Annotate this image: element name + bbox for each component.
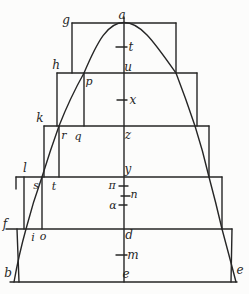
label-m-axis: m xyxy=(127,248,138,262)
label-t-foot: t xyxy=(52,180,57,193)
label-e-right: e xyxy=(236,263,243,277)
label-a: a xyxy=(118,8,125,22)
label-l: l xyxy=(23,161,27,175)
label-u: u xyxy=(124,60,132,74)
label-e-center: e xyxy=(122,267,129,281)
label-pi: π xyxy=(107,179,116,192)
label-t-axis: t xyxy=(129,40,134,54)
label-k: k xyxy=(36,111,43,125)
label-q: q xyxy=(74,130,81,143)
label-b: b xyxy=(4,266,12,280)
label-h: h xyxy=(52,58,60,72)
label-i: i xyxy=(31,231,35,244)
label-g: g xyxy=(62,13,70,27)
label-o: o xyxy=(40,230,47,243)
label-s: s xyxy=(33,179,39,192)
label-z: z xyxy=(124,128,132,142)
rect5-right-edge xyxy=(231,229,232,282)
diagram-stage: a t u x z y π n α d m e g h k l f b p r … xyxy=(0,0,249,294)
diagram-svg: a t u x z y π n α d m e g h k l f b p r … xyxy=(0,0,249,294)
label-alpha: α xyxy=(109,199,117,212)
label-p: p xyxy=(85,75,92,88)
label-n: n xyxy=(130,188,137,201)
label-d: d xyxy=(125,228,133,242)
label-x-axis: x xyxy=(130,93,137,107)
label-r: r xyxy=(61,129,67,142)
label-y: y xyxy=(124,162,132,176)
